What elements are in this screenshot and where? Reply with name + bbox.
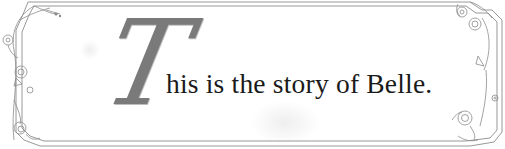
story-title-text: his is the story of Belle. [166, 68, 432, 100]
right-vine-ornament [452, 2, 498, 141]
left-vine-ornament [3, 6, 60, 140]
